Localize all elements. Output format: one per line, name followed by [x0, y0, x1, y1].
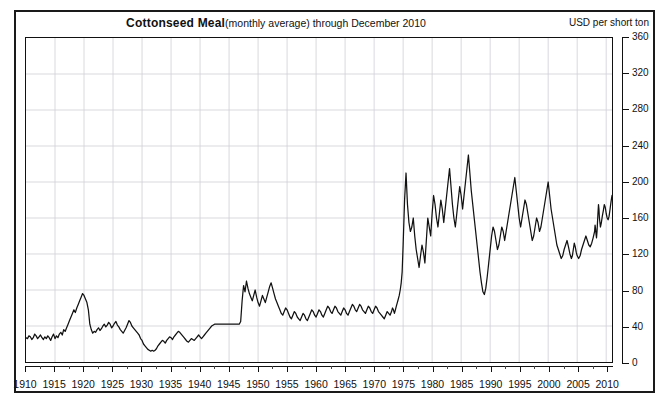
- y-tick-label: 200: [632, 177, 649, 187]
- x-minor-tick: [40, 366, 41, 369]
- x-tick: [607, 366, 608, 372]
- x-tick: [200, 366, 201, 372]
- x-tick: [403, 366, 404, 372]
- y-tick-label: 40: [632, 322, 643, 332]
- x-tick: [491, 366, 492, 372]
- y-tick-label: 320: [632, 68, 649, 78]
- x-minor-tick: [69, 366, 70, 369]
- x-minor-tick: [185, 366, 186, 369]
- plot-inner: [26, 38, 612, 362]
- x-tick: [287, 366, 288, 372]
- y-tick: [622, 146, 629, 147]
- y-tick-label: 0: [632, 358, 638, 368]
- x-tick: [549, 366, 550, 372]
- y-tick: [622, 73, 629, 74]
- y-tick-label: 120: [632, 249, 649, 259]
- x-tick: [258, 366, 259, 372]
- x-tick: [229, 366, 230, 372]
- x-axis: [21, 366, 621, 378]
- chart-header: Cottonseed Meal(monthly average) through…: [16, 12, 653, 36]
- x-tick: [54, 366, 55, 372]
- x-tick: [374, 366, 375, 372]
- plot-area: [25, 37, 613, 363]
- y-tick: [622, 254, 629, 255]
- x-minor-tick: [476, 366, 477, 369]
- x-minor-tick: [505, 366, 506, 369]
- x-tick: [520, 366, 521, 372]
- price-line-chart: [26, 38, 612, 362]
- y-tick: [622, 363, 629, 364]
- x-minor-tick: [156, 366, 157, 369]
- x-tick: [83, 366, 84, 372]
- x-tick: [112, 366, 113, 372]
- x-minor-tick: [243, 366, 244, 369]
- x-minor-tick: [447, 366, 448, 369]
- x-axis-labels: 1910191519201925193019351940194519501955…: [0, 378, 669, 394]
- y-tick-label: 280: [632, 104, 649, 114]
- x-minor-tick: [98, 366, 99, 369]
- y-tick-label: 360: [632, 32, 649, 42]
- x-minor-tick: [564, 366, 565, 369]
- x-tick: [578, 366, 579, 372]
- x-tick: [433, 366, 434, 372]
- y-axis: 36032028024020016012080400: [622, 33, 668, 367]
- y-tick: [622, 291, 629, 292]
- x-tick: [141, 366, 142, 372]
- chart-screenshot: Cottonseed Meal(monthly average) through…: [0, 0, 669, 406]
- x-minor-tick: [389, 366, 390, 369]
- x-minor-tick: [214, 366, 215, 369]
- y-axis-spine: [622, 37, 623, 363]
- y-tick: [622, 109, 629, 110]
- y-tick-label: 240: [632, 141, 649, 151]
- x-tick: [171, 366, 172, 372]
- x-tick-label: 2010: [590, 378, 624, 390]
- x-minor-tick: [360, 366, 361, 369]
- y-tick: [622, 218, 629, 219]
- x-tick: [345, 366, 346, 372]
- x-minor-tick: [593, 366, 594, 369]
- x-minor-tick: [127, 366, 128, 369]
- x-minor-tick: [534, 366, 535, 369]
- y-tick: [622, 37, 629, 38]
- x-tick: [25, 366, 26, 372]
- x-minor-tick: [418, 366, 419, 369]
- x-minor-tick: [331, 366, 332, 369]
- x-minor-tick: [302, 366, 303, 369]
- units-label: USD per short ton: [569, 17, 649, 28]
- title-main: Cottonseed Meal: [126, 16, 225, 30]
- title-sub: (monthly average) through December 2010: [225, 17, 426, 29]
- y-tick: [622, 182, 629, 183]
- y-tick-label: 80: [632, 286, 643, 296]
- y-tick-label: 160: [632, 213, 649, 223]
- x-tick: [462, 366, 463, 372]
- x-tick: [316, 366, 317, 372]
- y-tick: [622, 327, 629, 328]
- x-minor-tick: [272, 366, 273, 369]
- page-title: Cottonseed Meal(monthly average) through…: [16, 16, 536, 30]
